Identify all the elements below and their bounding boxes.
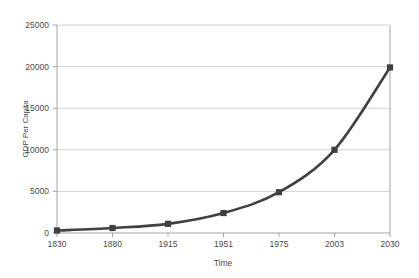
- data-point-marker-2003: [331, 147, 337, 153]
- data-point-marker-1915: [165, 221, 171, 227]
- chart-canvas: 0 5000 10000 15000 20000 25000 1830 1880…: [0, 0, 419, 278]
- y-tick-marks: [53, 25, 57, 233]
- xtick-label-1951: 1951: [214, 239, 233, 249]
- ytick-label-5000: 5000: [30, 186, 49, 196]
- xtick-label-2003: 2003: [325, 239, 344, 249]
- ytick-label-20000: 20000: [25, 62, 49, 72]
- y-axis-title: GDP Per Capita: [21, 100, 30, 158]
- x-tick-labels: 1830 1880 1915 1951 1975 2003 2030: [48, 239, 400, 249]
- data-point-marker-1975: [276, 189, 282, 195]
- xtick-label-1915: 1915: [159, 239, 178, 249]
- axis-lines: [57, 25, 390, 233]
- ytick-label-0: 0: [44, 228, 49, 238]
- series-line-gdp-per-capita: [57, 67, 390, 230]
- ytick-label-25000: 25000: [25, 20, 49, 30]
- x-tick-marks: [57, 233, 390, 237]
- data-point-marker-1830: [54, 227, 60, 233]
- xtick-label-1975: 1975: [270, 239, 289, 249]
- gdp-per-capita-line-chart: 0 5000 10000 15000 20000 25000 1830 1880…: [0, 0, 419, 278]
- xtick-label-1880: 1880: [103, 239, 122, 249]
- series-markers: [54, 64, 393, 233]
- data-point-marker-1951: [220, 210, 226, 216]
- gridlines: [57, 25, 390, 191]
- xtick-label-1830: 1830: [48, 239, 67, 249]
- xtick-label-2030: 2030: [381, 239, 400, 249]
- x-axis-title: Time: [214, 258, 233, 268]
- data-point-marker-2030: [387, 64, 393, 70]
- data-point-marker-1880: [109, 225, 115, 231]
